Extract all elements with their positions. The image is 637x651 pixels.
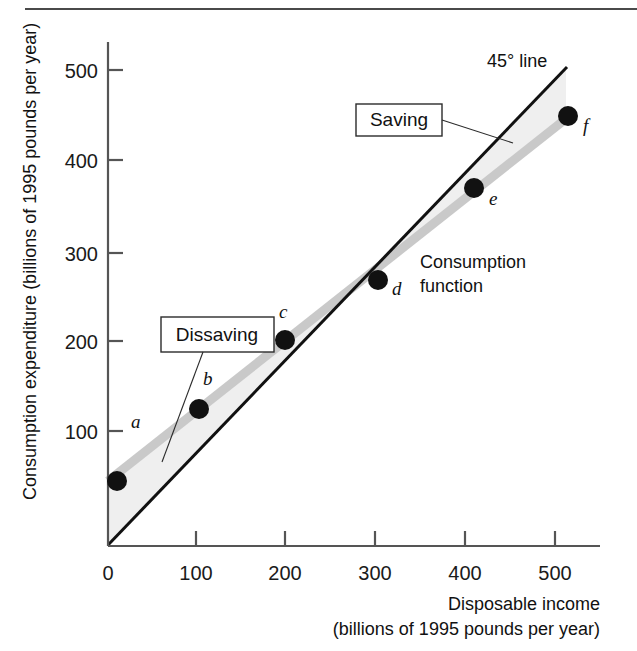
y-tick-label-300: 300 <box>65 243 98 265</box>
figure-container: 500 400 300 200 100 0 100 200 300 400 50… <box>0 0 637 651</box>
consumption-function-chart: 500 400 300 200 100 0 100 200 300 400 50… <box>0 0 637 651</box>
data-point-label-e: e <box>489 188 497 209</box>
y-axis-title: Consumption expenditure (billions of 199… <box>20 23 40 500</box>
saving-callout: Saving <box>356 104 513 143</box>
x-tick-label-500: 500 <box>538 562 571 584</box>
data-point-label-c: c <box>279 301 288 322</box>
y-tick-label-400: 400 <box>65 150 98 172</box>
x-axis-title: Disposable income <box>448 594 600 614</box>
data-point-label-d: d <box>392 278 402 299</box>
data-point-label-b: b <box>203 368 213 389</box>
data-point-e[interactable] <box>464 178 484 198</box>
data-point-c[interactable] <box>275 330 295 350</box>
x-tick-label-200: 200 <box>268 562 301 584</box>
saving-callout-label: Saving <box>370 109 428 130</box>
data-point-a[interactable] <box>107 471 127 491</box>
y-tick-label-500: 500 <box>65 60 98 82</box>
y-tick-label-200: 200 <box>65 331 98 353</box>
y-axis-ticks <box>108 70 123 431</box>
x-tick-label-100: 100 <box>179 562 212 584</box>
data-point-f[interactable] <box>558 106 578 126</box>
x-tick-label-400: 400 <box>448 562 481 584</box>
consumption-function-line <box>108 114 572 481</box>
consumption-function-label-line1: Consumption <box>420 252 526 272</box>
y-tick-label-100: 100 <box>65 421 98 443</box>
data-point-label-a: a <box>131 411 141 432</box>
x-axis-subtitle: (billions of 1995 pounds per year) <box>333 619 600 639</box>
data-point-b[interactable] <box>189 399 209 419</box>
saving-leader-line <box>442 120 513 143</box>
consumption-function-label-line2: function <box>420 276 483 296</box>
forty-five-degree-label: 45° line <box>487 51 547 71</box>
x-tick-label-0: 0 <box>102 562 113 584</box>
data-point-d[interactable] <box>368 270 388 290</box>
data-point-label-f: f <box>583 115 591 136</box>
x-tick-label-300: 300 <box>358 562 391 584</box>
x-axis-ticks <box>196 531 555 546</box>
dissaving-callout-label: Dissaving <box>176 324 258 345</box>
